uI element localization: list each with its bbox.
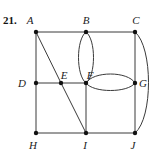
vertex-F xyxy=(84,81,88,85)
edge-F-G-curve-down xyxy=(86,83,135,91)
graph-edges xyxy=(36,32,149,133)
vertex-label-E: E xyxy=(60,69,68,81)
vertex-J xyxy=(133,131,137,135)
vertex-C xyxy=(133,30,137,34)
vertex-B xyxy=(84,30,88,34)
vertex-label-F: F xyxy=(86,69,94,81)
vertex-label-B: B xyxy=(83,14,90,26)
vertex-label-I: I xyxy=(82,139,88,151)
vertex-label-D: D xyxy=(17,77,26,89)
vertex-E xyxy=(59,81,63,85)
vertex-label-G: G xyxy=(139,77,147,89)
vertex-I xyxy=(84,131,88,135)
problem-number: 21. xyxy=(3,14,17,26)
vertex-H xyxy=(34,131,38,135)
edge-A-E-line xyxy=(36,32,61,83)
edge-B-F-curve-left xyxy=(79,32,87,83)
vertex-A xyxy=(34,30,38,34)
graph-figure: 21. ABCDEFGHIJ xyxy=(0,0,157,155)
vertex-D xyxy=(34,81,38,85)
vertex-G xyxy=(133,81,137,85)
vertex-label-H: H xyxy=(28,139,38,151)
vertex-label-C: C xyxy=(132,14,140,26)
vertex-label-A: A xyxy=(26,14,34,26)
vertex-label-J: J xyxy=(131,139,137,151)
edge-E-I-line xyxy=(61,83,86,133)
